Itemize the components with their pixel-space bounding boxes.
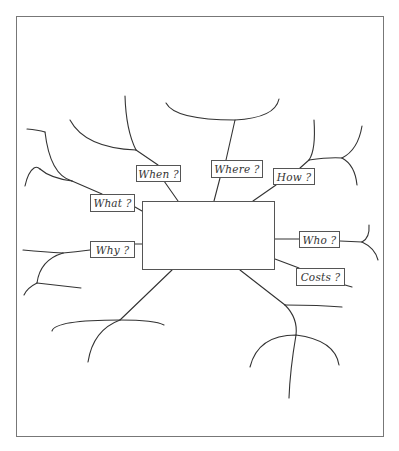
branch-label-when: When ? [136,165,181,182]
bottom-right-connector [240,270,285,305]
why-sub-1 [23,250,63,253]
what-sub-4 [25,167,40,186]
how-sub-2 [309,158,342,160]
bottom-left-sub-2 [88,320,120,362]
why-sub-4 [24,283,37,295]
what-connector [135,207,142,211]
how-sub-3 [342,126,362,158]
bottom-left-connector [120,270,172,320]
branch-label-what: What ? [90,194,135,212]
how-sub-4 [342,158,357,185]
bottom-right-sub-4 [289,335,296,398]
when-sub-2 [70,120,136,150]
why-sub-2 [37,253,63,283]
branch-label-who: Who ? [299,231,340,248]
costs-connector [275,259,299,268]
branch-label-where: Where ? [211,160,263,178]
when-connector [164,181,178,201]
what-trunk [72,181,102,194]
branch-label-costs: Costs ? [296,268,345,286]
bottom-left-sub-1 [52,320,164,331]
how-trunk [300,160,309,168]
when-sub-1 [125,96,136,150]
where-trunk [226,120,235,160]
bottom-right-sub-3 [250,335,339,367]
how-connector [253,185,276,201]
who-trunk [340,241,362,242]
where-sub [166,99,279,120]
who-sub-2 [362,242,378,260]
costs-tail [345,285,352,287]
what-sub-1 [45,132,72,181]
where-connector [214,178,220,201]
branch-label-how: How ? [273,168,315,185]
why-trunk [63,250,90,253]
who-sub-1 [362,225,369,242]
what-sub-2 [27,129,45,132]
central-topic-box [142,201,275,270]
bottom-right-sub-1 [285,305,342,307]
when-trunk [136,150,158,165]
bottom-right-sub-2 [285,305,296,335]
how-sub-1 [309,120,314,160]
why-sub-3 [37,283,81,288]
branch-label-why: Why ? [90,241,135,258]
